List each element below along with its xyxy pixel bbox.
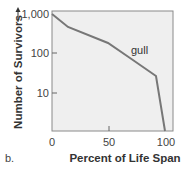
y-tick-label-100: 100 (31, 47, 49, 59)
panel-label: b. (5, 152, 14, 164)
x-axis-label: Percent of Life Span (69, 152, 180, 164)
y-axis-label: Number of Survivors (12, 15, 24, 129)
x-tick-label-50: 50 (103, 136, 115, 148)
y-tick-label-1000: 1,000 (21, 8, 49, 20)
y-tick-label-10: 10 (37, 87, 49, 99)
y-axis-arrow-icon (16, 7, 21, 12)
x-tick-label-0: 0 (49, 136, 55, 148)
x-tick-label-100: 100 (157, 136, 175, 148)
plot-area (52, 11, 173, 131)
survivorship-chart: 1,000 100 10 0 50 100 gull Number of Sur… (0, 0, 187, 169)
y-axis-label-group: Number of Survivors (12, 15, 24, 129)
series-label-gull: gull (131, 44, 148, 56)
